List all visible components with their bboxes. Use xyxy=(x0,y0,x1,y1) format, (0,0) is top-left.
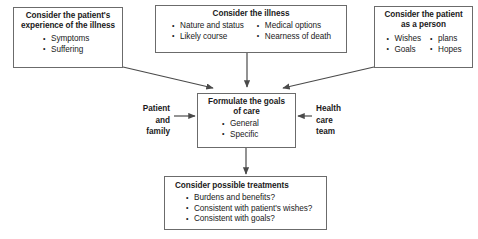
box-formulate-goals-of-care-bullets: General Specific xyxy=(221,119,291,140)
list-item: Goals xyxy=(386,45,422,55)
arrow-experience-to-goals xyxy=(123,67,213,88)
box-formulate-goals-of-care: Formulate the goals of care General Spec… xyxy=(197,93,296,148)
list-item: plans xyxy=(429,34,461,44)
box-patient-as-person-bullets-left: Wishes Goals xyxy=(386,34,422,55)
list-item: Hopes xyxy=(429,45,461,55)
box-patient-experience-bullets: Symptoms Suffering xyxy=(42,34,118,55)
box-patient-as-person-columns: Wishes Goals plans Hopes xyxy=(379,34,468,55)
box-possible-treatments-bullets: Burdens and benefits? Consistent with pa… xyxy=(185,193,322,224)
label-health-care-team-line1: Health xyxy=(316,103,362,115)
box-patient-experience: Consider the patient's experience of the… xyxy=(13,7,123,68)
box-patient-experience-title: Consider the patient's experience of the… xyxy=(18,11,118,31)
list-item: Burdens and benefits? xyxy=(185,193,322,203)
label-health-care-team: Health care team xyxy=(316,103,362,138)
diagram-canvas: Consider the patient's experience of the… xyxy=(0,0,478,239)
label-patient-and-family: Patient and family xyxy=(128,103,170,138)
box-consider-illness-columns: Nature and status Likely course Medical … xyxy=(160,21,342,42)
box-patient-as-person: Consider the patient as a person Wishes … xyxy=(374,6,473,68)
box-possible-treatments-title: Consider possible treatments xyxy=(169,181,322,191)
list-item: Suffering xyxy=(42,45,118,55)
label-patient-and-family-line3: family xyxy=(128,126,170,138)
box-consider-illness-bullets-left: Nature and status Likely course xyxy=(171,21,244,42)
label-patient-and-family-line2: and xyxy=(128,115,170,127)
list-item: Wishes xyxy=(386,34,422,44)
list-item: Nearness of death xyxy=(256,32,331,42)
label-patient-and-family-line1: Patient xyxy=(128,103,170,115)
box-consider-illness-title: Consider the illness xyxy=(160,9,342,19)
label-health-care-team-line3: team xyxy=(316,126,362,138)
box-consider-illness: Consider the illness Nature and status L… xyxy=(155,5,347,53)
box-possible-treatments: Consider possible treatments Burdens and… xyxy=(164,176,327,230)
box-patient-as-person-bullets-right: plans Hopes xyxy=(429,34,461,55)
list-item: Consistent with patient's wishes? xyxy=(185,204,322,214)
list-item: Likely course xyxy=(171,32,244,42)
label-health-care-team-line2: care xyxy=(316,115,362,127)
list-item: Consistent with goals? xyxy=(185,214,322,224)
arrow-person-to-goals xyxy=(283,67,374,88)
list-item: Symptoms xyxy=(42,34,118,44)
list-item: Nature and status xyxy=(171,21,244,31)
list-item: General xyxy=(221,119,291,129)
list-item: Specific xyxy=(221,130,291,140)
list-item: Medical options xyxy=(256,21,331,31)
box-formulate-goals-of-care-title: Formulate the goals of care xyxy=(202,97,291,117)
box-patient-as-person-title: Consider the patient as a person xyxy=(379,10,468,30)
box-consider-illness-bullets-right: Medical options Nearness of death xyxy=(256,21,331,42)
